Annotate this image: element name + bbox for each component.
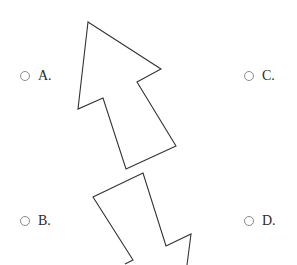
option-c[interactable]: C. [244, 69, 275, 83]
option-d-label: D. [262, 214, 276, 228]
arrow-down-icon [93, 173, 191, 265]
radio-a[interactable] [20, 71, 30, 81]
option-a[interactable]: A. [20, 69, 52, 83]
option-b-label: B. [38, 214, 51, 228]
radio-b[interactable] [20, 216, 30, 226]
radio-d[interactable] [244, 216, 254, 226]
option-b[interactable]: B. [20, 214, 51, 228]
option-a-label: A. [38, 69, 52, 83]
radio-c[interactable] [244, 71, 254, 81]
option-d[interactable]: D. [244, 214, 276, 228]
option-c-label: C. [262, 69, 275, 83]
arrow-up-icon [78, 22, 176, 169]
